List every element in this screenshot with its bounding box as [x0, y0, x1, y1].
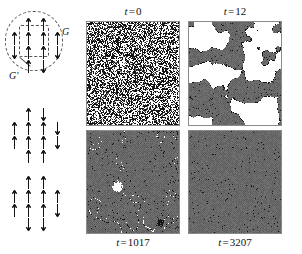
spin-arrow-up: [41, 32, 46, 45]
spin-arrow-down: [41, 218, 46, 231]
caption-t0-value: 0: [136, 5, 142, 17]
simulation-panel-t1017: [86, 130, 180, 234]
spin-arrow-up: [26, 46, 31, 59]
spin-arrow-up: [26, 150, 31, 163]
panel-t1017-image: [87, 131, 179, 233]
spin-arrow-down: [55, 204, 60, 217]
caption-t0: t=0: [86, 6, 180, 17]
panel-t12-image: [189, 22, 281, 125]
caption-t12-eq: =: [227, 5, 235, 17]
spin-arrow-up: [55, 190, 60, 203]
spin-arrow-up: [12, 32, 17, 45]
spin-arrow-down: [26, 218, 31, 231]
caption-t1017-eq: =: [119, 236, 127, 248]
caption-t3207-eq: =: [221, 236, 229, 248]
spin-arrow-down: [55, 136, 60, 149]
spin-arrow-up: [26, 136, 31, 149]
caption-t1017-value: 1017: [128, 236, 150, 248]
spin-arrow-up: [41, 204, 46, 217]
spin-arrow-up: [26, 176, 31, 189]
panel-t3207-image: [189, 131, 281, 233]
spin-arrow-down: [41, 108, 46, 121]
spin-arrow-up: [12, 122, 17, 135]
spin-arrow-up: [41, 18, 46, 31]
simulation-panel-t0: [86, 21, 180, 126]
spin-arrow-layer: [0, 0, 86, 254]
spin-arrow-up: [26, 122, 31, 135]
simulation-panel-t12: [188, 21, 282, 126]
spin-arrow-up: [55, 32, 60, 45]
caption-t3207: t=3207: [188, 237, 282, 248]
spin-arrow-up: [26, 108, 31, 121]
spin-arrow-up: [26, 190, 31, 203]
spin-arrow-up: [41, 176, 46, 189]
spin-arrow-down: [55, 122, 60, 135]
spin-arrow-up: [12, 136, 17, 149]
spin-arrow-up: [26, 18, 31, 31]
spin-arrow-up: [26, 204, 31, 217]
caption-t12: t=12: [188, 6, 282, 17]
spin-arrow-up: [41, 150, 46, 163]
spin-arrow-up: [41, 136, 46, 149]
figure-root: G G' t=0 t=12 t=1017 t=: [0, 0, 302, 254]
panel-t0-image: [87, 22, 179, 125]
spin-arrow-up: [41, 46, 46, 59]
spin-arrow-up: [12, 190, 17, 203]
block-spin-schematic: G G': [0, 0, 86, 254]
simulation-panel-t3207: [188, 130, 282, 234]
spin-arrow-down: [41, 60, 46, 73]
spin-arrow-up: [12, 204, 17, 217]
caption-t12-value: 12: [235, 5, 246, 17]
spin-arrow-up: [41, 122, 46, 135]
spin-arrow-up: [41, 190, 46, 203]
spin-arrow-up: [26, 32, 31, 45]
spin-arrow-down: [12, 46, 17, 59]
caption-t1017: t=1017: [86, 237, 180, 248]
caption-t3207-value: 3207: [230, 236, 252, 248]
spin-arrow-up: [26, 60, 31, 73]
spin-arrow-down: [55, 46, 60, 59]
caption-t0-eq: =: [128, 5, 136, 17]
